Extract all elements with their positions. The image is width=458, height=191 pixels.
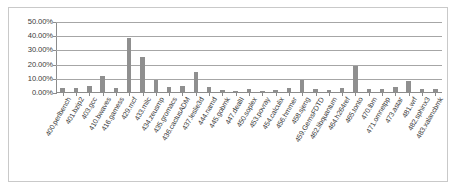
bar <box>313 89 318 92</box>
bar <box>220 90 225 92</box>
bar <box>140 57 145 92</box>
bar <box>300 80 305 92</box>
y-axis-tick-label: 40.00% <box>28 32 53 40</box>
bar <box>367 89 372 92</box>
y-axis-tick-label: 10.00% <box>28 75 53 83</box>
y-axis-tick-label: 30.00% <box>28 46 53 54</box>
bar <box>154 80 159 92</box>
gridline <box>56 36 442 37</box>
bar <box>60 88 65 92</box>
bar <box>327 90 332 92</box>
y-axis: 50.00%40.00%30.00%20.00%10.00%0.00% <box>0 0 53 191</box>
gridline <box>56 65 442 66</box>
bar <box>380 89 385 92</box>
bar <box>420 89 425 92</box>
bar <box>127 38 132 92</box>
bar <box>100 76 105 92</box>
bar <box>273 90 278 92</box>
bar <box>353 66 358 92</box>
bar <box>247 89 252 92</box>
bar <box>74 88 79 92</box>
bar <box>433 89 438 92</box>
bar-chart: 50.00%40.00%30.00%20.00%10.00%0.00% 400.… <box>0 0 458 191</box>
bar <box>260 91 265 92</box>
bar <box>233 91 238 92</box>
y-axis-tick-label: 20.00% <box>28 61 53 69</box>
bar <box>194 72 199 92</box>
bar <box>406 81 411 92</box>
x-axis-labels: 400.perlbench401.bzip2403.gcc410.bwaves4… <box>56 96 442 186</box>
gridline <box>56 22 442 23</box>
bar <box>207 87 212 92</box>
plot-area <box>56 22 442 93</box>
gridline <box>56 79 442 80</box>
bar <box>87 86 92 92</box>
bar <box>287 88 292 92</box>
bar <box>393 87 398 92</box>
y-axis-tick-label: 50.00% <box>28 18 53 26</box>
bar <box>114 88 119 92</box>
bar <box>340 88 345 92</box>
y-axis-tick-label: 0.00% <box>32 89 53 97</box>
chart-figure: 50.00%40.00%30.00%20.00%10.00%0.00% 400.… <box>0 0 458 191</box>
gridline <box>56 50 442 51</box>
bar <box>180 86 185 92</box>
bar <box>167 87 172 92</box>
